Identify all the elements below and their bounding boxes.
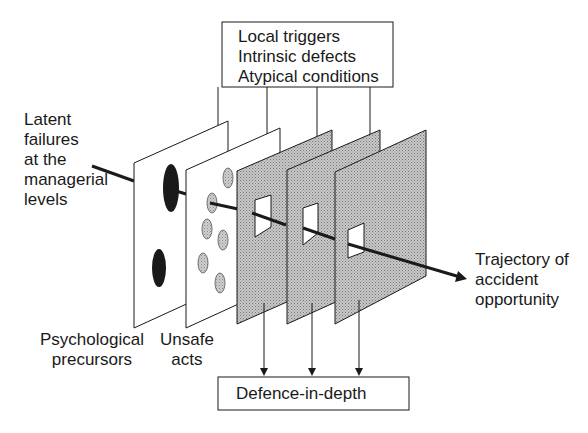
hole-light: [223, 168, 233, 188]
label-line: at the: [24, 150, 108, 170]
top-box-line: Atypical conditions: [238, 67, 379, 87]
hole-light: [198, 253, 208, 273]
label-line: Latent: [24, 110, 108, 130]
label-line: Trajectory of: [475, 250, 569, 270]
label-line: levels: [24, 190, 108, 210]
label-line: Psychological: [40, 330, 144, 350]
label-line: accident: [475, 270, 569, 290]
label-line: failures: [24, 130, 108, 150]
hole-light: [218, 230, 228, 250]
top-box-line: Intrinsic defects: [238, 47, 379, 67]
label-line: Unsafe: [160, 330, 214, 350]
label-line: precursors: [40, 350, 144, 370]
psychological-precursors-label: Psychological precursors: [40, 330, 144, 370]
label-line: opportunity: [475, 290, 569, 310]
latent-failures-label: Latent failures at the managerial levels: [24, 110, 108, 210]
hole-dark: [152, 249, 166, 287]
hole-light: [202, 219, 212, 239]
top-box-text: Local triggers Intrinsic defects Atypica…: [238, 27, 379, 87]
top-box-line: Local triggers: [238, 27, 379, 47]
arrow-right-icon: [455, 271, 467, 282]
label-line: managerial: [24, 170, 108, 190]
defence-in-depth-label: Defence-in-depth: [236, 384, 366, 404]
hole-light: [215, 273, 225, 293]
trajectory-label: Trajectory of accident opportunity: [475, 250, 569, 310]
label-line: acts: [160, 350, 214, 370]
unsafe-acts-label: Unsafe acts: [160, 330, 214, 370]
